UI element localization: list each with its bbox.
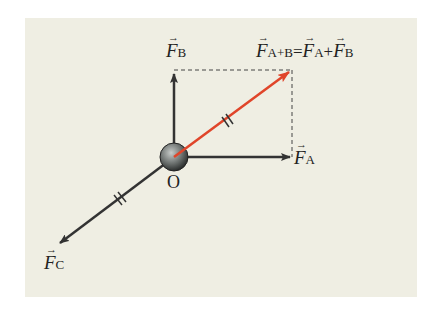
resultant-equation: →FA+B=→FA+→FB — [256, 40, 353, 62]
vector-arrow-icon: → — [258, 31, 269, 43]
force-diagram — [0, 0, 433, 315]
vector-f-c — [60, 157, 174, 243]
label-f-b: →FB — [166, 40, 186, 62]
vector-arrow-icon: → — [335, 31, 346, 43]
label-f-c: →FC — [44, 252, 64, 274]
origin-label: O — [167, 172, 180, 193]
vector-arrow-icon: → — [305, 31, 316, 43]
vector-arrow-icon: → — [168, 31, 179, 43]
vector-arrow-icon: → — [296, 138, 307, 150]
label-f-a: →FA — [294, 147, 315, 169]
vector-f-resultant — [174, 72, 289, 157]
vector-arrow-icon: → — [46, 243, 57, 255]
